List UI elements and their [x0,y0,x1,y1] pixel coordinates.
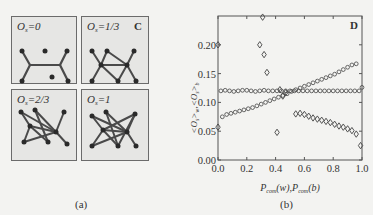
chart-axes: 0.00.20.40.60.81.00.000.050.100.150.20 [198,16,369,174]
svg-text:0.05: 0.05 [198,126,216,137]
svg-text:0.6: 0.6 [298,163,311,174]
chart-panel-label: D [350,19,358,31]
chart-points [216,14,364,149]
svg-text:0.00: 0.00 [198,155,216,166]
svg-text:0.4: 0.4 [269,163,283,174]
svg-text:0.15: 0.15 [198,69,216,80]
scatter-chart: 0.00.20.40.60.81.00.000.050.100.150.20 D… [0,0,373,215]
y-axis-label: <Os>w,<Os>b [189,82,200,133]
svg-text:0.20: 0.20 [198,40,216,51]
svg-text:0.2: 0.2 [240,163,253,174]
caption-b: (b) [280,198,293,210]
svg-text:0.8: 0.8 [327,163,340,174]
svg-text:0.10: 0.10 [198,97,216,108]
x-axis-label: Pcom(w),Pcom(b) [259,182,320,194]
svg-text:1.0: 1.0 [355,163,368,174]
